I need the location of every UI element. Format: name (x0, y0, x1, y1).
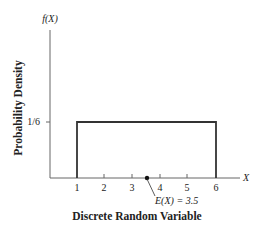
expected-value-annotation: E(X) = 3.5 (154, 195, 198, 207)
x-tick-label-4: 4 (158, 182, 163, 193)
y-tick-label: 1/6 (27, 116, 40, 127)
x-tick-label-6: 6 (214, 182, 219, 193)
x-tick-label-5: 5 (185, 182, 190, 193)
y-axis-title: Probability Density (12, 60, 25, 156)
y-axis-symbol: f(X) (42, 13, 58, 25)
x-tick-label-1: 1 (75, 182, 80, 193)
x-axis-title: Discrete Random Variable (72, 210, 201, 222)
expected-value-leader (147, 179, 155, 196)
x-tick-label-3: 3 (130, 182, 135, 193)
x-tick-label-2: 2 (102, 182, 107, 193)
x-axis-symbol: X (242, 172, 250, 183)
uniform-density-line (77, 122, 216, 178)
uniform-distribution-chart: f(X) X 1/6 1 2 3 4 5 6 E(X) = 3.5 Probab… (0, 0, 264, 227)
